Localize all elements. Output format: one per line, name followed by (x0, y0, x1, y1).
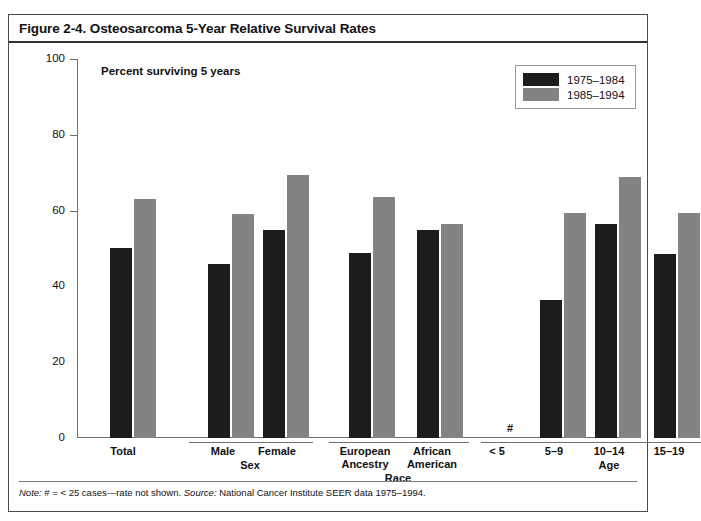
footnote: Note: # = < 25 cases—rate not shown. Sou… (19, 487, 426, 498)
footnote-divider (19, 481, 637, 482)
bar-female-1975–1984 (263, 230, 285, 438)
legend-item-1985-1994: 1985–1994 (523, 88, 625, 101)
category-label-european-ancestry: EuropeanAncestry (340, 445, 391, 470)
category-label-5-9: 5–9 (545, 445, 563, 458)
bar-5-9-1985–1994 (564, 213, 586, 439)
bar-female-1985–1994 (287, 175, 309, 438)
chart-legend: 1975–1984 1985–1994 (515, 65, 636, 109)
y-tick-mark (70, 211, 77, 212)
group-rule-age (481, 442, 701, 443)
bar-10-14-1975–1984 (595, 224, 617, 438)
y-tick-label: 20 (35, 355, 65, 367)
legend-label: 1985–1994 (567, 89, 625, 101)
bar-5-9-1975–1984 (540, 300, 562, 438)
axis-note-label: Percent surviving 5 years (101, 65, 240, 77)
legend-swatch-icon (523, 88, 559, 101)
missing-data-marker: # (507, 422, 513, 434)
group-label-age: Age (599, 459, 620, 471)
category-label-15-19: 15–19 (654, 445, 685, 458)
category-label-total: Total (110, 445, 135, 458)
y-tick-label: 0 (35, 431, 65, 443)
category-label-under-5: < 5 (489, 445, 505, 458)
y-tick-label: 40 (35, 279, 65, 291)
legend-label: 1975–1984 (567, 74, 625, 86)
footnote-note-label: Note: (19, 487, 42, 498)
figure-title-bar: Figure 2-4. Osteosarcoma 5-Year Relative… (9, 15, 647, 43)
bar-15-19-1975–1984 (654, 254, 676, 438)
chart-plot-area: Percent surviving 5 years 100 80 60 40 2… (77, 59, 627, 438)
bar-total-1975–1984 (110, 248, 132, 438)
page-title: Figure 2-4. Osteosarcoma 5-Year Relative… (19, 21, 647, 36)
category-label-african-american: AfricanAmerican (407, 445, 457, 470)
bar-african-american-1985–1994 (441, 224, 463, 438)
bar-european-ancestry-1975–1984 (349, 253, 371, 438)
category-label-male: Male (211, 445, 235, 458)
footnote-note-text: # = < 25 cases—rate not shown. (42, 487, 184, 498)
y-tick-label: 100 (35, 52, 65, 64)
y-tick-label: 80 (35, 128, 65, 140)
bar-15-19-1985–1994 (678, 213, 700, 439)
y-tick-label: 60 (35, 204, 65, 216)
group-rule-race (329, 442, 469, 443)
footnote-source-text: National Cancer Institute SEER data 1975… (217, 487, 426, 498)
y-tick-mark (70, 59, 77, 60)
footnote-source-label: Source: (184, 487, 217, 498)
figure-panel: Figure 2-4. Osteosarcoma 5-Year Relative… (8, 14, 648, 512)
y-axis-line (77, 59, 78, 438)
category-label-10-14: 10–14 (594, 445, 625, 458)
y-tick-mark (70, 135, 77, 136)
legend-item-1975-1984: 1975–1984 (523, 73, 625, 86)
bar-european-ancestry-1985–1994 (373, 197, 395, 438)
bar-male-1985–1994 (232, 214, 254, 438)
group-label-sex: Sex (240, 459, 260, 471)
group-label-race: Race (385, 472, 411, 484)
bar-total-1985–1994 (134, 199, 156, 438)
legend-swatch-icon (523, 73, 559, 86)
bar-african-american-1975–1984 (417, 230, 439, 438)
group-rule-sex (189, 442, 313, 443)
bar-male-1975–1984 (208, 264, 230, 438)
bar-10-14-1985–1994 (619, 177, 641, 439)
category-label-female: Female (258, 445, 296, 458)
